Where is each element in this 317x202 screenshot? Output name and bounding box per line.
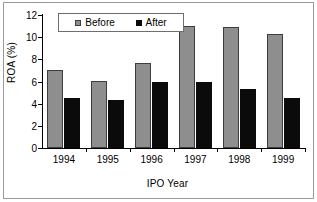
y-axis-tick-mark: [38, 104, 42, 105]
y-axis-tick-label: 2: [31, 120, 37, 131]
bar-after-1996: [152, 82, 168, 149]
x-axis-tick-mark: [217, 148, 218, 152]
plot-area: 024681012199419951996199719981999: [42, 15, 305, 148]
y-axis-tick-label: 0: [31, 143, 37, 154]
y-axis-tick-mark: [38, 148, 42, 149]
legend-swatch-before-icon: [75, 20, 81, 26]
y-axis-tick-mark: [38, 59, 42, 60]
y-axis-tick-mark: [38, 15, 42, 16]
chart-figure: ROA (%) IPO Year 02468101219941995199619…: [0, 0, 317, 202]
x-axis-tick-label: 1994: [53, 154, 75, 165]
y-axis-tick-label: 10: [26, 32, 37, 43]
x-axis-tick-mark: [174, 148, 175, 152]
y-axis-title: ROA (%): [6, 28, 17, 98]
y-axis-tick-mark: [38, 82, 42, 83]
bar-after-1994: [64, 98, 80, 148]
x-axis-tick-mark: [261, 148, 262, 152]
y-axis-tick-label: 12: [26, 10, 37, 21]
legend-swatch-after-icon: [136, 20, 142, 26]
x-axis-title: IPO Year: [30, 178, 305, 189]
x-axis-tick-mark: [86, 148, 87, 152]
legend-entry-before: Before: [75, 17, 114, 28]
x-axis-tick-label: 1996: [140, 154, 162, 165]
bar-before-1998: [223, 27, 239, 148]
bar-before-1995: [91, 81, 107, 148]
bar-after-1995: [108, 100, 124, 148]
y-axis-tick-label: 4: [31, 98, 37, 109]
legend-label-after: After: [146, 17, 167, 28]
x-axis-tick-mark: [130, 148, 131, 152]
y-axis-tick-mark: [38, 37, 42, 38]
x-axis-tick-label: 1997: [184, 154, 206, 165]
bar-after-1997: [196, 82, 212, 149]
legend-entry-after: After: [136, 17, 167, 28]
y-axis-tick-label: 6: [31, 76, 37, 87]
bar-after-1998: [240, 89, 256, 148]
x-axis-tick-mark: [305, 148, 306, 152]
bar-after-1999: [284, 98, 300, 148]
bar-before-1994: [47, 70, 63, 148]
bar-before-1996: [135, 63, 151, 148]
y-axis-tick-mark: [38, 126, 42, 127]
bar-before-1999: [267, 34, 283, 148]
bar-before-1997: [179, 26, 195, 148]
chart-legend: Before After: [58, 13, 184, 32]
x-axis-tick-label: 1999: [272, 154, 294, 165]
x-axis-tick-label: 1995: [97, 154, 119, 165]
x-axis-tick-label: 1998: [228, 154, 250, 165]
y-axis-tick-label: 8: [31, 54, 37, 65]
legend-label-before: Before: [85, 17, 114, 28]
